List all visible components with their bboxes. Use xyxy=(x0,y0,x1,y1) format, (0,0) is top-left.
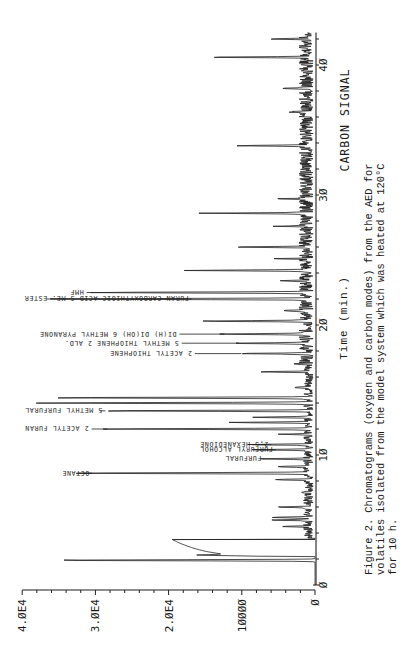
svg-text:5 METHYL THIOPHENE 2 ALD.: 5 METHYL THIOPHENE 2 ALD. xyxy=(65,339,179,347)
caption-line-2: volatiles isolated from the model system… xyxy=(375,163,387,575)
svg-text:2 ACETYL FURAN: 2 ACETYL FURAN xyxy=(25,424,89,432)
peak-label-8: DI(H) DI(OH) 6 METHYL PYRANONE xyxy=(39,329,224,337)
time-tick-label: 4Ø xyxy=(317,58,330,72)
time-tick-label: 1Ø xyxy=(317,448,330,462)
svg-text:HMF: HMF xyxy=(70,288,84,296)
caption-line-3: for 10 h. xyxy=(387,519,399,575)
svg-text:FURFURAL: FURFURAL xyxy=(225,454,262,462)
time-tick-label: 3Ø xyxy=(317,188,330,202)
peak-label-6: 2 ACETYL THIOPHENE xyxy=(110,349,242,357)
peak-label-0: OCTANE xyxy=(62,469,92,477)
svg-text:DI(H) DI(OH) 6 METHYL PYRANONE: DI(H) DI(OH) 6 METHYL PYRANONE xyxy=(39,329,176,337)
peak-label-5: 5 METHYL FURFURAL xyxy=(25,406,106,414)
carbon-signal-title: CARBON SIGNAL xyxy=(338,68,352,171)
svg-text:5 METHYL FURFURAL: 5 METHYL FURFURAL xyxy=(25,406,103,414)
svg-text:FURAN CARBOXYTHIOIC ACID S ME.: FURAN CARBOXYTHIOIC ACID S ME. ESTER xyxy=(24,294,189,302)
signal-tick-label: 1ØØØØ xyxy=(236,599,249,632)
peak-label-7: 5 METHYL THIOPHENE 2 ALD. xyxy=(65,339,240,347)
svg-text:2 ACETYL THIOPHENE: 2 ACETYL THIOPHENE xyxy=(110,349,192,357)
peak-label-4: 2 ACETYL FURAN xyxy=(25,424,108,432)
signal-axis: Ø1ØØØØ2.ØE43.ØE44.ØE4 xyxy=(16,590,322,632)
peak-label-3: 2,5 HEXANEDIONE xyxy=(200,440,272,448)
signal-tick-label: 4.ØE4 xyxy=(16,599,29,632)
peak-label-9: FURAN CARBOXYTHIOIC ACID S ME. ESTER xyxy=(24,294,192,302)
chromatogram-trace xyxy=(36,33,315,586)
peak-labels: OCTANEFURFURALFURFURYL ALCOHOL2,5 HEXANE… xyxy=(24,288,276,477)
caption-line-1: Figure 2. Chromatograms (oxygen and carb… xyxy=(363,163,375,575)
peak-label-1: FURFURAL xyxy=(225,454,265,462)
chromatogram-figure: CARBON SIGNAL OCTANEFURFURALFURFURYL ALC… xyxy=(0,0,412,668)
time-tick-label: 2Ø xyxy=(317,318,330,332)
signal-tick-label: 3.ØE4 xyxy=(89,599,102,632)
signal-tick-label: Ø xyxy=(309,599,322,606)
svg-text:OCTANE: OCTANE xyxy=(62,469,89,477)
time-axis-title: Time (min.) xyxy=(338,276,350,360)
signal-tick-label: 2.ØE4 xyxy=(163,599,176,632)
figure-caption: Figure 2. Chromatograms (oxygen and carb… xyxy=(363,163,399,575)
time-tick-label: Ø xyxy=(317,581,330,588)
svg-text:2,5 HEXANEDIONE: 2,5 HEXANEDIONE xyxy=(200,440,269,448)
signal-title-text: CARBON SIGNAL xyxy=(338,68,352,171)
carbon-trace-line xyxy=(36,33,315,586)
